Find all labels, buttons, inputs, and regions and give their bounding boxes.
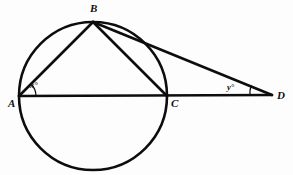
- angle-label-y: y°: [227, 83, 234, 92]
- point-label-b: B: [90, 3, 97, 14]
- segment-bd: [93, 22, 272, 95]
- segment-ad: [19, 95, 272, 96]
- point-label-a: A: [8, 98, 15, 109]
- geometry-canvas: [0, 0, 293, 175]
- point-label-d: D: [277, 90, 285, 101]
- angle-arc-y: [250, 86, 251, 95]
- geometry-figure: A B C D x° y°: [0, 0, 293, 175]
- point-label-c: C: [171, 98, 178, 109]
- angle-label-x: x°: [30, 81, 38, 90]
